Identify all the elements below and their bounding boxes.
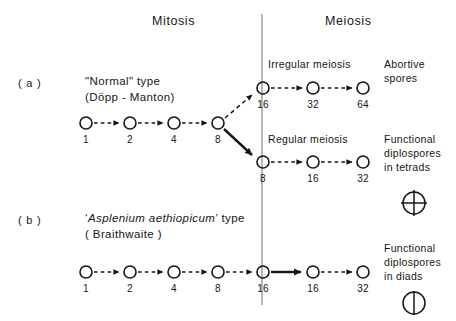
cell-node-a4 bbox=[212, 117, 224, 129]
irregular-meiosis-chain-group bbox=[257, 82, 369, 94]
row-b-species-italic: Asplenium aethiopicum bbox=[88, 212, 215, 224]
node-value-a3: 4 bbox=[171, 134, 177, 145]
ploidy-cycle-diagram: Mitosis Meiosis ( a ) "Normal" type (Döp… bbox=[0, 0, 456, 321]
cell-node-b3 bbox=[168, 266, 180, 278]
node-value-b2: 2 bbox=[127, 283, 133, 294]
branch-label-irregular-meiosis: Irregular meiosis bbox=[268, 58, 351, 71]
node-value-irr-3: 64 bbox=[357, 99, 369, 110]
cell-node-b5 bbox=[257, 266, 269, 278]
row-a-type-author: (Döpp - Manton) bbox=[85, 90, 175, 104]
cell-node-reg-16 bbox=[307, 156, 319, 168]
cell-node-a1 bbox=[80, 117, 92, 129]
node-value-b7: 32 bbox=[357, 283, 369, 294]
row-tag-b: ( b ) bbox=[18, 214, 42, 227]
node-value-b1: 1 bbox=[83, 283, 89, 294]
cell-node-b6 bbox=[307, 266, 319, 278]
row-b-type-author: ( Braithwaite ) bbox=[85, 227, 162, 241]
node-value-b4: 8 bbox=[215, 283, 221, 294]
outcome-tetrads-line3: in tetrads bbox=[384, 161, 430, 174]
cell-node-irr-32 bbox=[307, 82, 319, 94]
row-a-type-name: "Normal" type bbox=[85, 74, 160, 88]
node-value-a4: 8 bbox=[215, 134, 221, 145]
cell-node-reg-32 bbox=[357, 156, 369, 168]
node-value-b3: 4 bbox=[171, 283, 177, 294]
row-tag-a: ( a ) bbox=[18, 77, 42, 90]
node-value-a1: 1 bbox=[83, 134, 89, 145]
diad-symbol-icon bbox=[403, 291, 425, 315]
node-value-irr-2: 32 bbox=[307, 99, 319, 110]
node-value-reg-1: 8 bbox=[260, 173, 266, 184]
cell-node-reg-8 bbox=[257, 156, 269, 168]
tetrad-symbol-icon bbox=[401, 190, 427, 216]
cell-node-b1 bbox=[80, 266, 92, 278]
node-value-a2: 2 bbox=[127, 134, 133, 145]
outcome-tetrads-line1: Functional bbox=[384, 133, 435, 146]
outcome-diads-line1: Functional bbox=[384, 242, 435, 255]
outcome-diads-line3: in diads bbox=[384, 270, 423, 283]
regular-meiosis-chain-group bbox=[257, 156, 369, 168]
node-value-b6: 16 bbox=[307, 283, 319, 294]
outcome-abortive-line2: spores bbox=[384, 72, 417, 85]
mitosis-chain-b-group bbox=[80, 266, 269, 278]
cell-node-b2 bbox=[124, 266, 136, 278]
cell-node-b4 bbox=[212, 266, 224, 278]
cell-node-a3 bbox=[168, 117, 180, 129]
cell-node-a2 bbox=[124, 117, 136, 129]
node-value-reg-3: 32 bbox=[357, 173, 369, 184]
branch-label-regular-meiosis: Regular meiosis bbox=[268, 133, 348, 146]
outcome-diads-line2: diplospores bbox=[384, 256, 441, 269]
node-value-reg-2: 16 bbox=[307, 173, 319, 184]
branch-arrow-irregular bbox=[225, 95, 252, 118]
branch-arrow-regular bbox=[224, 129, 252, 155]
node-value-b5: 16 bbox=[257, 283, 269, 294]
header-mitosis: Mitosis bbox=[152, 14, 195, 29]
mitosis-chain-a-group bbox=[80, 117, 224, 129]
outcome-tetrads-line2: diplospores bbox=[384, 147, 441, 160]
header-meiosis: Meiosis bbox=[325, 14, 372, 29]
row-b-type-name: ‘Asplenium aethiopicum’ type bbox=[85, 211, 245, 225]
meiosis-chain-b-group bbox=[271, 266, 369, 278]
outcome-abortive-line1: Abortive bbox=[384, 58, 425, 71]
cell-node-irr-64 bbox=[357, 82, 369, 94]
cell-node-b7 bbox=[357, 266, 369, 278]
cell-node-irr-16 bbox=[257, 82, 269, 94]
node-value-irr-1: 16 bbox=[257, 99, 269, 110]
